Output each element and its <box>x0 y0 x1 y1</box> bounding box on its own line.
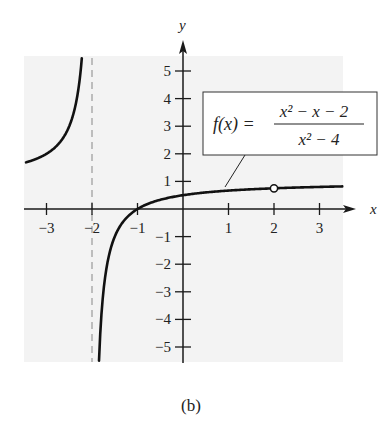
figure: −3−2−112354321−1−2−3−4−5 f(x) = x² − x −… <box>0 0 382 434</box>
x-tick-label: 1 <box>225 220 233 236</box>
x-tick-label: −1 <box>130 220 146 236</box>
hole-point <box>270 185 277 192</box>
figure-caption: (b) <box>0 396 382 416</box>
y-tick-label: 4 <box>164 91 172 107</box>
y-tick-label: 2 <box>164 146 172 162</box>
y-tick-label: −5 <box>155 339 171 355</box>
y-tick-label: 5 <box>164 63 172 79</box>
y-tick-label: −3 <box>155 284 171 300</box>
x-tick-label: −2 <box>84 220 100 236</box>
open-circle-icon <box>270 185 277 192</box>
y-tick-label: 3 <box>164 118 172 134</box>
y-tick-label: −4 <box>155 311 171 327</box>
y-tick-label: −2 <box>155 256 171 272</box>
y-tick-label: 1 <box>164 173 172 189</box>
y-axis-label: y <box>177 17 186 33</box>
formula-numerator: x² − x − 2 <box>279 102 349 121</box>
x-axis-label: x <box>369 201 377 217</box>
y-tick-label: −1 <box>155 229 171 245</box>
formula-lhs: f(x) = <box>213 114 255 135</box>
function-plot: −3−2−112354321−1−2−3−4−5 f(x) = x² − x −… <box>0 0 382 434</box>
x-tick-label: 2 <box>270 220 278 236</box>
formula-denominator: x² − 4 <box>297 130 340 149</box>
x-tick-label: −3 <box>39 220 55 236</box>
x-tick-label: 3 <box>316 220 324 236</box>
